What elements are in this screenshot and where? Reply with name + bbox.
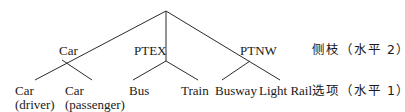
edge-ptex-bus <box>133 61 166 80</box>
leaf-label-light-rail: Light Rail <box>259 84 312 97</box>
leaf-label-train: Train <box>181 84 209 97</box>
leaf-label-bus: Bus <box>129 84 149 97</box>
leaf-line2: (passenger) <box>65 98 125 111</box>
edge-ptnw-busway <box>222 61 250 80</box>
leaf-line1: Car <box>15 84 55 97</box>
leaf-label-car-passenger: Car (passenger) <box>65 84 125 111</box>
edge-car-passenger <box>62 60 92 80</box>
leaf-line2: (driver) <box>15 98 55 111</box>
nest-label-ptnw: PTNW <box>240 44 277 57</box>
edge-ptex-train <box>166 61 198 80</box>
level-label-2: 侧枝（水平 2） <box>312 43 405 56</box>
leaf-label-car-driver: Car (driver) <box>15 84 55 111</box>
nest-label-ptex: PTEX <box>134 44 167 57</box>
nest-label-car: Car <box>59 44 78 57</box>
leaf-line1: Car <box>65 84 125 97</box>
leaf-label-busway: Busway <box>215 84 257 97</box>
level-label-1: 选项（水平 1） <box>312 84 405 97</box>
